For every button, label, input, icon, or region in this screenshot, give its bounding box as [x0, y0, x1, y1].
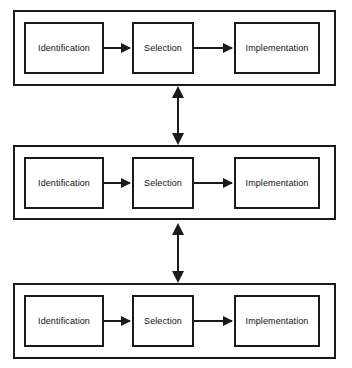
flow-arrow-icon-identification-to-selection-1 [104, 47, 130, 49]
process-node-identification-3: Identification [24, 295, 104, 347]
process-node-label: Selection [144, 44, 182, 53]
process-node-implementation-3: Implementation [234, 295, 320, 347]
flow-arrow-icon-identification-to-selection-2 [104, 182, 130, 184]
process-node-label: Implementation [246, 179, 309, 188]
process-node-label: Identification [38, 44, 90, 53]
process-node-label: Implementation [246, 44, 309, 53]
process-node-label: Selection [144, 317, 182, 326]
process-node-label: Selection [144, 179, 182, 188]
tier-container-1: Identification Selection Implementation [13, 10, 336, 86]
process-node-identification-1: Identification [24, 22, 104, 74]
process-node-label: Implementation [246, 317, 309, 326]
bidirectional-arrow-icon-tier2-tier3 [177, 234, 179, 272]
tier-container-3: Identification Selection Implementation [13, 283, 336, 359]
process-node-label: Identification [38, 317, 90, 326]
flow-arrow-icon-identification-to-selection-3 [104, 320, 130, 322]
process-node-implementation-2: Implementation [234, 157, 320, 209]
flow-arrow-icon-selection-to-implementation-2 [194, 182, 232, 184]
flow-arrow-icon-selection-to-implementation-3 [194, 320, 232, 322]
process-node-selection-2: Selection [132, 157, 194, 209]
process-node-selection-1: Selection [132, 22, 194, 74]
process-flow-diagram: Identification Selection Implementation … [0, 0, 352, 368]
bidirectional-arrow-icon-tier1-tier2 [177, 97, 179, 134]
flow-arrow-icon-selection-to-implementation-1 [194, 47, 232, 49]
tier-container-2: Identification Selection Implementation [13, 145, 336, 220]
process-node-implementation-1: Implementation [234, 22, 320, 74]
process-node-identification-2: Identification [24, 157, 104, 209]
process-node-label: Identification [38, 179, 90, 188]
process-node-selection-3: Selection [132, 295, 194, 347]
